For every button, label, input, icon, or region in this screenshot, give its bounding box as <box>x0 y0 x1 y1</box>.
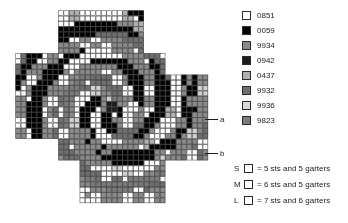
chart-marker-a: a <box>205 115 224 124</box>
legend-swatch-9934 <box>242 41 251 50</box>
marker-b-leader-line <box>205 153 218 154</box>
chart-grid-canvas <box>0 0 232 223</box>
legend-row: 9936 <box>242 98 342 113</box>
legend-label: 0059 <box>257 26 275 35</box>
legend-swatch-9932 <box>242 86 251 95</box>
size-code: M <box>234 180 244 189</box>
legend-row: 9823 <box>242 113 342 128</box>
legend-row: 9934 <box>242 38 342 53</box>
size-code: L <box>234 196 244 205</box>
size-swatch <box>244 180 253 189</box>
size-legend: S= 5 sts and 5 gartersM= 6 sts and 5 gar… <box>234 160 348 208</box>
size-text: = 5 sts and 5 garters <box>257 164 330 173</box>
legend-swatch-0851 <box>242 11 251 20</box>
legend-label: 0942 <box>257 56 275 65</box>
legend-swatch-9823 <box>242 116 251 125</box>
size-code: S <box>234 164 244 173</box>
marker-a-leader-line <box>205 119 218 120</box>
legend-row: 0851 <box>242 8 342 23</box>
legend-label: 9934 <box>257 41 275 50</box>
legend-row: 0437 <box>242 68 342 83</box>
legend-swatch-9936 <box>242 101 251 110</box>
chart-marker-b: b <box>205 149 224 158</box>
size-text: = 6 sts and 5 garters <box>257 180 330 189</box>
legend-label: 0437 <box>257 71 275 80</box>
legend-label: 9823 <box>257 116 275 125</box>
color-legend: 08510059993409420437993299369823 <box>242 8 342 128</box>
legend-swatch-0437 <box>242 71 251 80</box>
legend-label: 9936 <box>257 101 275 110</box>
legend-label: 0851 <box>257 11 275 20</box>
legend-swatch-0942 <box>242 56 251 65</box>
size-swatch <box>244 164 253 173</box>
legend-row: 9932 <box>242 83 342 98</box>
legend-row: 0942 <box>242 53 342 68</box>
marker-b-label: b <box>220 149 224 158</box>
size-legend-row: L= 7 sts and 6 garters <box>234 192 348 208</box>
size-swatch <box>244 196 253 205</box>
marker-a-label: a <box>220 115 224 124</box>
size-text: = 7 sts and 6 garters <box>257 196 330 205</box>
size-legend-row: S= 5 sts and 5 garters <box>234 160 348 176</box>
legend-row: 0059 <box>242 23 342 38</box>
size-legend-row: M= 6 sts and 5 garters <box>234 176 348 192</box>
legend-label: 9932 <box>257 86 275 95</box>
colorwork-chart: a b <box>0 0 232 223</box>
legend-swatch-0059 <box>242 26 251 35</box>
